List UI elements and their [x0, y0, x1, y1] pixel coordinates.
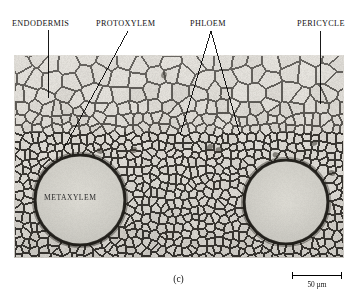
- micrograph-image: [14, 55, 344, 258]
- figure-caption: (c): [0, 275, 357, 285]
- callout-label-pericycle: PERICYCLE: [297, 20, 345, 28]
- figure-root: ENDODERMIS PROTOXYLEM PHLOEM PERICYCLE M…: [0, 0, 357, 304]
- callout-label-endodermis: ENDODERMIS: [12, 20, 69, 28]
- micrograph-canvas: [14, 55, 344, 258]
- callout-label-phloem: PHLOEM: [190, 20, 226, 28]
- inset-label-metaxylem: METAXYLEM: [44, 194, 96, 202]
- callout-label-protoxylem: PROTOXYLEM: [96, 20, 155, 28]
